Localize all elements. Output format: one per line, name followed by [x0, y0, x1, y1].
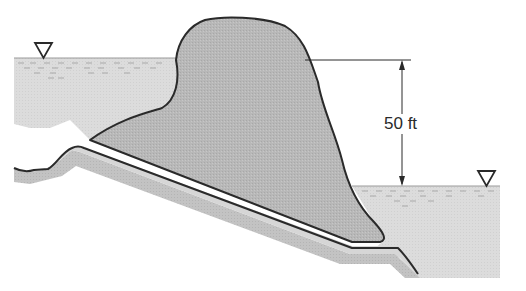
dimension-arrow-up-icon [399, 60, 405, 70]
upstream-water-level-triangle-icon [35, 43, 52, 58]
landslide-cross-section-diagram [0, 0, 526, 291]
downstream-water-level-triangle-icon [478, 171, 495, 186]
dimension-arrow-down-icon [399, 176, 405, 186]
head-difference-label: 50 ft [383, 114, 418, 134]
